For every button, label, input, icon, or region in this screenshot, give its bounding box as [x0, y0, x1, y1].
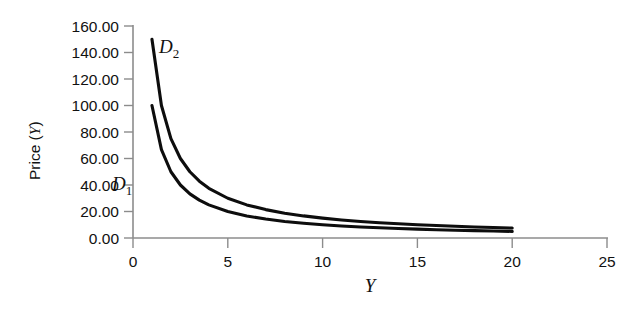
x-tick-label: 0: [129, 253, 138, 270]
y-tick-label: 20.00: [80, 203, 119, 220]
demand-curve-d1: [152, 106, 512, 232]
x-axis-ticks: 0510152025: [129, 238, 616, 270]
y-axis-ticks: 0.0020.0040.0060.0080.00100.00120.00140.…: [72, 18, 133, 247]
chart-canvas: 0.0020.0040.0060.0080.00100.00120.00140.…: [0, 0, 641, 315]
x-tick-label: 15: [409, 253, 426, 270]
y-tick-label: 140.00: [72, 44, 120, 61]
y-tick-label: 120.00: [72, 71, 120, 88]
y-tick-label: 0.00: [89, 230, 120, 247]
x-tick-label: 20: [504, 253, 522, 270]
y-tick-label: 80.00: [80, 124, 119, 141]
x-tick-label: 5: [223, 253, 232, 270]
y-tick-label: 100.00: [72, 97, 120, 114]
series-label-d2: D2: [158, 36, 179, 61]
y-tick-label: 160.00: [72, 18, 120, 35]
demand-curve-d2: [152, 39, 512, 228]
y-axis-title: Price (Y): [26, 121, 43, 180]
demand-curve-chart: 0.0020.0040.0060.0080.00100.00120.00140.…: [0, 0, 641, 315]
y-tick-label: 60.00: [80, 150, 119, 167]
x-tick-label: 25: [598, 253, 615, 270]
x-tick-label: 10: [314, 253, 332, 270]
x-axis-title: Y: [365, 275, 378, 296]
series-label-d1: D1: [111, 173, 132, 198]
